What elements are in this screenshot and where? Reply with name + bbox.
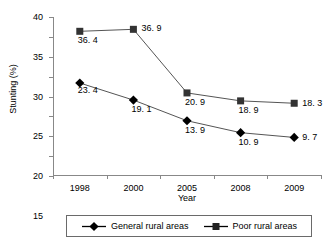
- y-tick-label: 20: [33, 172, 43, 181]
- square-marker-icon: [203, 221, 229, 232]
- data-point-label: 36. 4: [78, 36, 98, 45]
- diamond-marker-icon: [81, 221, 107, 232]
- x-tick-label: 1998: [70, 183, 90, 193]
- data-point-label: 9. 7: [302, 133, 317, 142]
- x-tick-mark: [321, 175, 322, 179]
- data-point-label: 20. 9: [185, 98, 205, 107]
- x-tick-label: 2008: [231, 183, 251, 193]
- data-point-label: 19. 1: [131, 105, 151, 114]
- y-tick-label: 15: [33, 211, 43, 220]
- diamond-marker-icon: [290, 133, 299, 142]
- legend-item[interactable]: General rural areas: [81, 221, 189, 232]
- chart-figure: Stunting (%) Year 0510152025303540 19982…: [0, 0, 335, 248]
- x-tick-label: 2000: [123, 183, 143, 193]
- square-marker-icon: [237, 97, 244, 104]
- data-point-label: 18. 9: [239, 106, 259, 115]
- diamond-marker-icon: [182, 116, 191, 125]
- square-marker-icon: [184, 89, 191, 96]
- y-tick-label: 30: [33, 92, 43, 101]
- square-marker-icon: [291, 100, 298, 107]
- plot-area: 0510152025303540 19982000200520082009 23…: [53, 17, 321, 176]
- x-tick-label: 2005: [177, 183, 197, 193]
- legend-item-label: General rural areas: [111, 221, 189, 231]
- square-marker-icon: [130, 26, 137, 33]
- square-marker-icon: [76, 28, 83, 35]
- legend-item[interactable]: Poor rural areas: [203, 221, 298, 232]
- data-point-label: 18. 3: [302, 99, 322, 108]
- diamond-marker-icon: [236, 128, 245, 137]
- data-point-label: 23. 4: [78, 86, 98, 95]
- y-tick-label: 40: [33, 13, 43, 22]
- y-axis-title: Stunting (%): [8, 41, 18, 137]
- data-point-label: 13. 9: [185, 126, 205, 135]
- y-tick-label: 25: [33, 132, 43, 141]
- x-tick-label: 2009: [284, 183, 304, 193]
- x-axis-title: Year: [53, 193, 321, 203]
- chart-legend: General rural areasPoor rural areas: [66, 215, 312, 237]
- data-point-label: 10. 9: [239, 138, 259, 147]
- y-tick-label: 35: [33, 52, 43, 61]
- legend-item-label: Poor rural areas: [233, 221, 298, 231]
- data-point-label: 36. 9: [141, 24, 161, 33]
